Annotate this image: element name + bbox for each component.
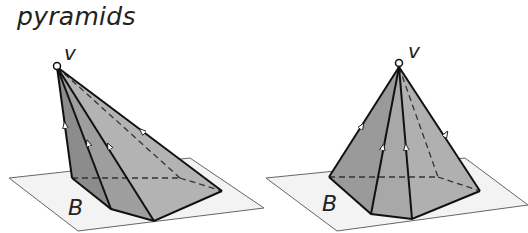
base-label: B — [68, 195, 83, 220]
oblique-pyramid-figure: v B — [9, 41, 264, 231]
right-pyramid-figure: v B — [266, 39, 528, 231]
apex-label: v — [64, 41, 77, 65]
apex-point — [396, 60, 403, 67]
apex-point — [54, 63, 61, 70]
pyramids-diagram: v B v B — [0, 0, 528, 233]
base-label: B — [322, 191, 337, 216]
apex-label: v — [408, 39, 421, 63]
